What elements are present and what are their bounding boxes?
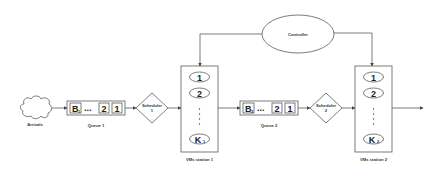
svg-text:1: 1 <box>371 73 376 83</box>
arrivals-cloud-icon <box>20 96 51 119</box>
arrow-controller-to-station2 <box>334 33 372 66</box>
svg-text:K: K <box>369 135 376 145</box>
arrivals-label: Arrivals <box>27 122 43 127</box>
queue1: B 1 ... 2 1 <box>67 101 125 115</box>
controller-label: Controller <box>288 32 308 37</box>
queue1-cell-2: 2 <box>101 104 106 114</box>
arrow-controller-to-station1 <box>200 34 262 66</box>
svg-text:2: 2 <box>274 104 279 114</box>
svg-text:1: 1 <box>287 104 292 114</box>
svg-text:2: 2 <box>197 89 202 99</box>
queue2: B 2 ... 2 1 <box>240 101 298 115</box>
svg-text:2: 2 <box>371 89 376 99</box>
queueing-diagram: Arrivals B 1 ... 2 1 Queue 1 Scheduler 1… <box>0 0 445 171</box>
station1-label: VMs station 1 <box>186 157 214 162</box>
svg-text:...: ... <box>257 103 265 113</box>
svg-text:1: 1 <box>197 73 202 83</box>
station2-label: VMs station 2 <box>360 157 388 162</box>
svg-text:K: K <box>195 135 202 145</box>
queue2-label: Queue 2 <box>261 123 278 128</box>
queue1-ellipsis: ... <box>84 103 92 113</box>
queue1-label: Queue 1 <box>88 123 105 128</box>
queue1-cell-1: 1 <box>114 104 119 114</box>
